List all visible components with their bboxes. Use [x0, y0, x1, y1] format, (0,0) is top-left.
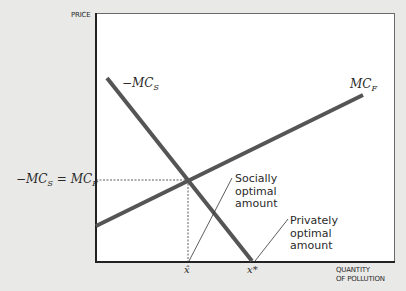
neg-mcs-label-text: −MC — [122, 76, 154, 90]
privately-optimal-leader — [255, 219, 288, 261]
eq-left-text: −MC — [16, 172, 48, 186]
x-star-tick: x* — [247, 264, 258, 275]
eq-right-sub: F — [92, 179, 98, 188]
privately-optimal-note: Privately optimal amount — [290, 215, 338, 253]
neg-mcs-label: −MCS — [122, 76, 159, 92]
mcf-label-sub: F — [371, 84, 377, 93]
neg-mcs-label-sub: S — [154, 83, 159, 92]
mcf-label-text: MC — [350, 77, 371, 91]
y-axis-label: PRICE — [71, 11, 90, 19]
socially-line1: Socially — [235, 173, 277, 186]
x-axis-label: QUANTITY OF POLLUTION — [336, 266, 385, 283]
equilibrium-price-label: −MCS = MCF — [16, 172, 98, 188]
x-axis-label-line2: OF POLLUTION — [336, 275, 385, 284]
socially-optimal-note: Socially optimal amount — [235, 173, 277, 211]
eq-right-text: = MC — [53, 172, 92, 186]
diagram-lines — [0, 0, 406, 291]
privately-line1: Privately — [290, 215, 338, 228]
privately-line3: amount — [290, 240, 338, 253]
mcf-label: MCF — [350, 77, 377, 93]
socially-line3: amount — [235, 198, 277, 211]
neg-mcs-curve — [107, 78, 252, 261]
x-hat-tick: x̂ — [184, 264, 190, 275]
x-axis-label-line1: QUANTITY — [336, 266, 385, 275]
